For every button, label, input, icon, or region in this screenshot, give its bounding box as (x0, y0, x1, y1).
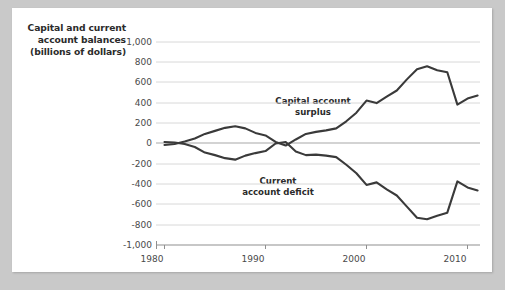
series-line-current-account-deficit (165, 142, 478, 219)
series-line-capital-account-surplus (165, 66, 478, 145)
screenshot-root: Capital and current account balances (bi… (0, 0, 505, 290)
figure-card: Capital and current account balances (bi… (12, 8, 492, 272)
chart-figure: Capital and current account balances (bi… (12, 8, 492, 272)
chart-plot-area (12, 8, 492, 272)
axis-lines (156, 241, 480, 249)
